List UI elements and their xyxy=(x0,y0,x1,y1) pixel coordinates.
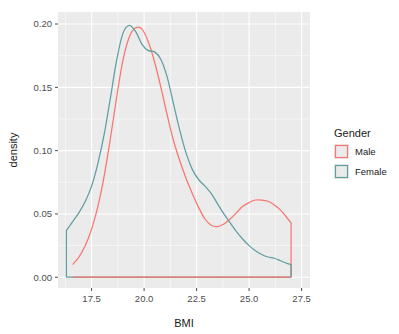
legend-key-background xyxy=(334,164,349,179)
y-tick-label: 0.10 xyxy=(34,145,53,156)
x-tick-label: 27.5 xyxy=(292,293,311,304)
legend-item-label: Male xyxy=(355,146,376,157)
y-axis-title: density xyxy=(7,132,19,167)
x-tick-label: 17.5 xyxy=(82,293,101,304)
x-tick-label: 20.0 xyxy=(135,293,154,304)
chart-canvas: 17.520.022.525.027.5 0.000.050.100.150.2… xyxy=(0,0,399,334)
y-tick-label: 0.20 xyxy=(34,18,53,29)
y-tick-label: 0.05 xyxy=(34,208,53,219)
legend-key-background xyxy=(334,144,349,159)
x-tick-label: 22.5 xyxy=(187,293,206,304)
plot-panel-background xyxy=(58,12,310,288)
legend-title: Gender xyxy=(334,127,371,139)
density-plot-figure: 17.520.022.525.027.5 0.000.050.100.150.2… xyxy=(0,0,399,334)
y-tick-label: 0.15 xyxy=(34,82,53,93)
legend-item-label: Female xyxy=(355,166,387,177)
y-tick-label: 0.00 xyxy=(34,272,53,283)
x-tick-label: 25.0 xyxy=(240,293,259,304)
x-axis-title: BMI xyxy=(174,317,194,329)
